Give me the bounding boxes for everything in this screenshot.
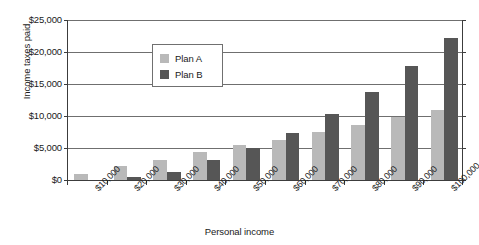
bar-group bbox=[306, 20, 346, 180]
legend-swatch-plan-a bbox=[160, 54, 169, 63]
bar-plan-b bbox=[444, 38, 458, 180]
y-axis-tick-label: $25,000 bbox=[18, 15, 62, 25]
bar-group bbox=[108, 20, 148, 180]
x-axis-title: Personal income bbox=[0, 226, 479, 237]
x-axis-tick-label: $40,000 bbox=[212, 186, 219, 193]
legend-entry: Plan A bbox=[160, 50, 222, 66]
bar-plan-b bbox=[325, 114, 339, 180]
x-axis-tick-label: $100,000 bbox=[449, 186, 456, 193]
bar-group bbox=[345, 20, 385, 180]
bar-group bbox=[68, 20, 108, 180]
y-axis-tick-label: $0 bbox=[18, 175, 62, 185]
x-axis-tick-label: $20,000 bbox=[132, 186, 139, 193]
legend-label-plan-b: Plan B bbox=[175, 69, 202, 80]
bar-chart: Income taxes paid $0$5,000$10,000$15,000… bbox=[0, 0, 479, 245]
x-axis-tick-label: $50,000 bbox=[251, 186, 258, 193]
bars-layer bbox=[68, 20, 462, 180]
x-axis-tick-label: $90,000 bbox=[410, 186, 417, 193]
x-axis-tick-mark bbox=[67, 180, 68, 185]
y-axis-tick-label: $15,000 bbox=[18, 79, 62, 89]
x-axis-tick-label: $60,000 bbox=[291, 186, 298, 193]
x-axis-tick-label: $30,000 bbox=[172, 186, 179, 193]
bar-plan-b bbox=[207, 160, 221, 180]
y-axis-tick-label: $10,000 bbox=[18, 111, 62, 121]
bar-plan-b bbox=[246, 148, 260, 180]
bar-plan-b bbox=[365, 92, 379, 180]
x-axis-tick-label: $10,000 bbox=[93, 186, 100, 193]
y-axis-tick-labels: $0$5,000$10,000$15,000$20,000$25,000 bbox=[18, 0, 62, 245]
plot-area bbox=[67, 20, 463, 180]
x-axis-tick-label: $80,000 bbox=[370, 186, 377, 193]
chart-legend: Plan A Plan B bbox=[152, 44, 223, 87]
legend-swatch-plan-b bbox=[160, 70, 169, 79]
x-axis-tick-label: $70,000 bbox=[330, 186, 337, 193]
legend-entry: Plan B bbox=[160, 66, 222, 82]
bar-group bbox=[226, 20, 266, 180]
legend-label-plan-a: Plan A bbox=[175, 53, 202, 64]
bar-plan-b bbox=[405, 66, 419, 180]
y-axis-tick-label: $5,000 bbox=[18, 143, 62, 153]
bar-plan-b bbox=[286, 133, 300, 180]
y-axis-tick-label: $20,000 bbox=[18, 47, 62, 57]
bar-group bbox=[266, 20, 306, 180]
bar-group bbox=[424, 20, 464, 180]
bar-group bbox=[385, 20, 425, 180]
